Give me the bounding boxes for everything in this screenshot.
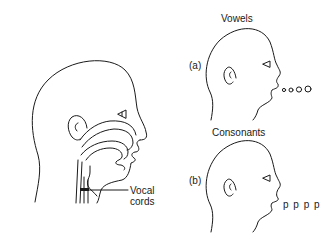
panel-b-marker: (b) [189, 175, 201, 186]
vocal-cords-label-line1: Vocal [130, 185, 154, 196]
panel-a-title: Vowels [221, 13, 253, 24]
panel-b-title: Consonants [212, 127, 265, 138]
consonant-sound-symbols: p p p p [283, 199, 321, 210]
vowels-eye-icon [263, 61, 270, 67]
vocal-cords-label-line2: cords [130, 196, 154, 207]
vocal-cords-marker [80, 188, 89, 191]
consonants-head-outline [206, 141, 280, 232]
vowel-sound-circles [282, 86, 311, 92]
vowels-ear-icon [224, 67, 236, 84]
consonants-eye-icon [263, 175, 270, 181]
main-head-outline [32, 61, 146, 203]
consonants-ear-icon [224, 179, 236, 196]
eye-icon [118, 110, 126, 118]
ear-icon [68, 116, 87, 140]
panel-a-marker: (a) [189, 60, 201, 71]
diagram-canvas [0, 0, 330, 243]
vowels-head-outline [206, 29, 280, 120]
